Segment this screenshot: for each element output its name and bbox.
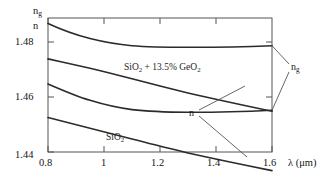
germania-label-sub2: 2 — [197, 66, 200, 73]
refractive-index-figure: ng n 1.48 1.46 1.44 0.8 1 1.2 1.4 1.6 λ … — [0, 0, 329, 184]
curve-ng-germania — [48, 24, 272, 48]
x-tick-label-1-4: 1.4 — [207, 158, 220, 169]
germania-label-part2: + 13.5% GeO — [142, 62, 197, 72]
n-leader-to-silica-curve — [199, 116, 247, 157]
x-axis-label: λ (μm) — [288, 158, 317, 169]
curve-ng-silica — [48, 84, 272, 112]
x-tick-label-1-6: 1.6 — [263, 158, 276, 169]
callout-ng-subscript: g — [296, 66, 300, 74]
germania-label-part1: SiO — [124, 62, 139, 72]
curve-label-germania-doped-silica: SiO2 + 13.5% GeO2 — [124, 63, 201, 74]
ng-leader-to-germania-curve — [272, 46, 289, 64]
callout-group-index: ng — [291, 62, 300, 74]
x-tick-label-0-8: 0.8 — [39, 158, 52, 169]
y-axis-label-phase-index: n — [33, 21, 38, 32]
silica-label-sub1: 2 — [121, 136, 124, 143]
ng-leader-to-silica-curve — [272, 72, 289, 110]
x-tick-label-1-2: 1.2 — [151, 158, 164, 169]
x-axis-ticks — [48, 18, 272, 152]
callout-phase-index: n — [189, 108, 194, 118]
plot-frame — [48, 18, 272, 152]
curve-label-silica: SiO2 — [106, 133, 124, 144]
silica-label-part1: SiO — [106, 132, 121, 142]
n-leader-to-germania-curve — [199, 86, 245, 110]
y-axis-label-ng-subscript: g — [38, 9, 42, 18]
y-axis-label-group-index: ng — [33, 6, 42, 18]
y-tick-label-1-46: 1.46 — [15, 92, 33, 103]
y-tick-label-1-48: 1.48 — [15, 37, 33, 48]
ng-callout-leaders — [272, 46, 289, 111]
y-tick-label-1-44: 1.44 — [15, 150, 33, 161]
axes-border — [48, 18, 272, 152]
x-tick-label-1: 1 — [101, 158, 106, 169]
